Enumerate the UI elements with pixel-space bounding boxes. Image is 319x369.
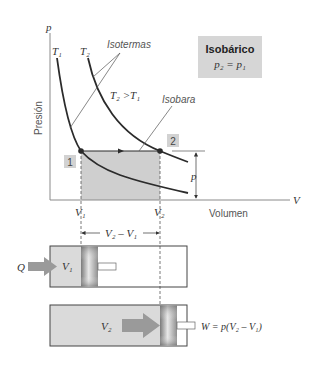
state-1-point — [78, 148, 84, 154]
x-axis-symbol: V — [293, 194, 301, 206]
relation-label: T₂ >T₁ — [110, 89, 140, 101]
process-equation: p₂ = p₁ — [213, 58, 246, 70]
pressure-marker-label: p — [190, 170, 197, 182]
isobar-label: Isobara — [162, 94, 196, 105]
cylinder-state-2: V₂ W = p(V₂ – V₁) — [50, 305, 263, 346]
t1-label: T₁ — [52, 45, 62, 57]
state-2-point — [157, 148, 163, 154]
cylinder-1-rod — [98, 263, 116, 270]
v2-tick-label: V₂ — [154, 206, 165, 218]
work-label: W = p(V₂ – V₁) — [201, 321, 263, 333]
x-axis-label: Volumen — [209, 208, 248, 219]
isobaric-process-diagram: p V Presión Volumen 1 2 T₁ T₂ Isotermas … — [0, 0, 319, 369]
cylinder-2-volume-label: V₂ — [101, 320, 112, 332]
t2-label: T₂ — [80, 45, 90, 57]
process-title: Isobárico — [206, 43, 255, 55]
isotherms-label: Isotermas — [107, 39, 151, 50]
state-2-label: 2 — [170, 136, 176, 147]
cylinder-2-rod — [177, 322, 195, 329]
cylinder-1-volume-label: V₁ — [62, 260, 73, 272]
cylinder-2-piston-shade — [160, 306, 177, 346]
cylinder-state-1: Q V₁ — [17, 246, 187, 287]
delta-v-label: V₂ – V₁ — [105, 227, 137, 239]
cylinder-1-piston-shade — [81, 247, 98, 287]
heat-label: Q — [17, 261, 25, 273]
v1-tick-label: V₁ — [75, 206, 86, 218]
y-axis-symbol: p — [45, 21, 52, 33]
y-axis-label: Presión — [33, 101, 44, 135]
state-1-label: 1 — [67, 157, 73, 168]
